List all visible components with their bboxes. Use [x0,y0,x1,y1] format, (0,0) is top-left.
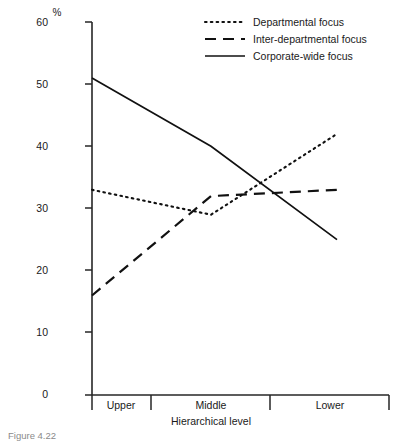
series-line-departmental-focus [92,134,337,215]
legend-label-departmental-focus: Departmental focus [253,16,344,28]
y-axis-unit-label: % [53,7,62,18]
y-tick-label-60: 60 [36,16,48,28]
legend: Departmental focus Inter-departmental fo… [205,16,367,62]
x-category-label-upper: Upper [107,399,136,411]
series-line-inter-departmental-focus [92,190,337,296]
x-category-label-lower: Lower [316,399,345,411]
series-line-corporate-wide-focus [92,78,337,240]
y-tick-label-0: 0 [42,388,48,400]
legend-label-inter-departmental-focus: Inter-departmental focus [253,33,367,45]
legend-label-corporate-wide-focus: Corporate-wide focus [253,50,353,62]
y-tick-label-10: 10 [36,326,48,338]
x-category-label-middle: Middle [196,399,227,411]
y-tick-label-50: 50 [36,78,48,90]
line-chart: % 60 50 40 30 20 10 0 Upper Middle Lower… [0,0,410,442]
figure-container: % 60 50 40 30 20 10 0 Upper Middle Lower… [0,0,410,442]
y-tick-label-30: 30 [36,202,48,214]
figure-caption: Figure 4.22 [8,430,56,441]
x-axis-title: Hierarchical level [171,415,251,427]
y-tick-label-20: 20 [36,264,48,276]
y-tick-label-40: 40 [36,140,48,152]
